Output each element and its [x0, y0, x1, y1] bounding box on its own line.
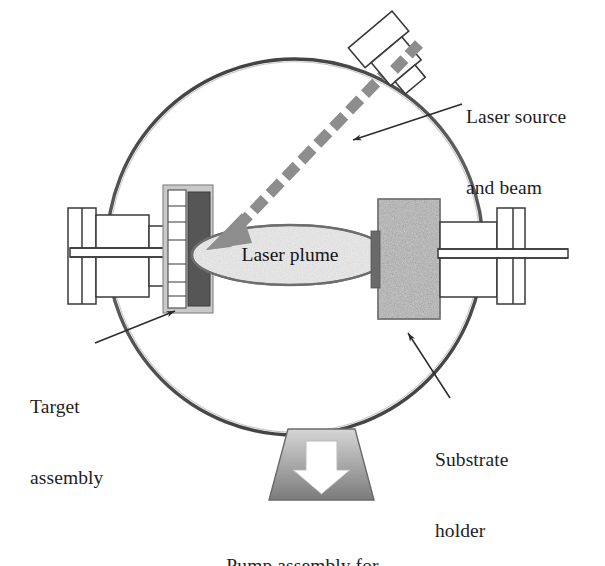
label-pump-assembly: Pump assembly for vacuum environment — [0, 506, 605, 566]
label-laser-source-line2: and beam — [466, 176, 566, 200]
pump-assembly-trapezoid — [269, 429, 374, 500]
label-pump-assembly-line1: Pump assembly for — [0, 554, 605, 566]
pld-schematic-diagram: Laser source and beam Target assembly Su… — [0, 0, 605, 566]
label-target-assembly-line1: Target — [30, 395, 103, 419]
substrate-holder-block — [371, 199, 440, 319]
label-laser-source: Laser source and beam — [466, 57, 566, 247]
label-target-assembly-line2: assembly — [30, 466, 103, 490]
label-laser-source-line1: Laser source — [466, 105, 566, 129]
label-substrate-holder-line1: Substrate — [435, 448, 508, 472]
label-laser-plume: Laser plume — [205, 244, 375, 266]
